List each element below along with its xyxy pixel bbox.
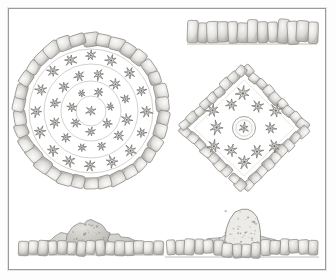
plant-crown xyxy=(242,92,244,94)
specimen-stipple xyxy=(237,232,239,234)
plant-crown xyxy=(118,135,120,137)
foliage-stipple xyxy=(87,229,88,230)
specimen-stipple xyxy=(240,241,242,243)
foliage-stipple xyxy=(98,232,100,234)
plant-crown xyxy=(90,131,92,133)
plant-crown xyxy=(215,126,217,128)
plant-crown xyxy=(78,75,80,77)
specimen-stipple xyxy=(239,211,240,212)
stone xyxy=(257,22,268,43)
plant-crown xyxy=(213,145,215,147)
stone xyxy=(76,241,87,257)
border-course-stones xyxy=(187,19,318,45)
specimen-stipple xyxy=(245,238,246,239)
stone xyxy=(296,20,310,42)
stone xyxy=(308,240,318,255)
figure-left-section-elevation xyxy=(17,205,165,263)
specimen-stipple xyxy=(225,210,227,212)
plant-crown xyxy=(81,147,82,148)
specimen-stipple xyxy=(245,219,246,220)
plant-symbol-rings xyxy=(31,50,153,171)
specimen-stipple xyxy=(254,233,256,235)
plant-crown xyxy=(39,131,41,133)
figure-stone-border-strip-elevation xyxy=(185,15,319,51)
specimen-stipple xyxy=(231,234,232,235)
specimen-stipple xyxy=(251,240,252,241)
plant-crown xyxy=(146,111,148,113)
plant-crown xyxy=(75,122,77,124)
foliage-stipple xyxy=(79,239,80,240)
plant-crown xyxy=(115,83,117,85)
specimen-stipple xyxy=(257,241,258,242)
foliage-stipple xyxy=(103,237,105,239)
plant-crown xyxy=(89,165,91,167)
plant-crown xyxy=(52,149,54,151)
plant-crown xyxy=(141,90,143,92)
specimen-stipple xyxy=(251,221,253,223)
figure-circular-bed-plan xyxy=(9,29,174,194)
foliage-stipple xyxy=(120,236,121,237)
stone xyxy=(251,242,261,258)
plant-crown xyxy=(110,59,112,61)
stone xyxy=(95,240,106,256)
illustration-plate xyxy=(0,0,336,280)
plant-crown xyxy=(52,70,54,72)
specimen-stipple xyxy=(237,228,239,230)
specimen-stipple xyxy=(224,232,226,234)
specimen-stipple xyxy=(244,232,246,234)
plant-crown xyxy=(126,119,128,121)
stone xyxy=(48,241,58,255)
plant-crown xyxy=(40,89,42,91)
foliage-stipple xyxy=(218,237,220,239)
specimen-stipple xyxy=(254,230,255,231)
figure-diamond-bed-plan xyxy=(169,55,319,201)
plant-crown xyxy=(243,127,245,129)
specimen-stipple xyxy=(243,235,245,237)
stone xyxy=(241,244,251,258)
specimen-stipple xyxy=(237,218,239,220)
stone xyxy=(261,240,271,256)
plant-crown xyxy=(101,145,103,147)
specimen-stipple xyxy=(233,228,235,230)
stone xyxy=(143,241,153,254)
foliage-stipple xyxy=(91,224,94,227)
plant-crown xyxy=(35,111,37,113)
plant-crown xyxy=(141,132,143,134)
plant-crown xyxy=(98,74,100,76)
plant-crown xyxy=(65,137,67,139)
stone xyxy=(38,240,49,256)
stone xyxy=(133,241,144,254)
stone xyxy=(222,243,234,258)
specimen-stipple xyxy=(242,237,243,238)
specimen-stipple xyxy=(226,236,227,237)
plant-crown xyxy=(90,54,92,56)
specimen-stipple xyxy=(255,218,256,219)
specimen-stipple xyxy=(229,233,231,235)
plate-frame xyxy=(8,8,326,270)
specimen-stipple xyxy=(246,231,247,232)
stone xyxy=(203,240,214,254)
specimen-stipple xyxy=(247,216,249,218)
stone xyxy=(28,241,38,255)
stone xyxy=(308,22,318,44)
plant-crown xyxy=(257,105,259,107)
stone xyxy=(67,242,77,255)
specimen-stipple xyxy=(254,223,255,224)
foliage-stipple xyxy=(82,239,83,240)
plant-crown xyxy=(243,161,245,163)
specimen-stipple xyxy=(234,238,235,239)
stone xyxy=(184,239,195,256)
stone xyxy=(85,240,95,254)
plant-crown xyxy=(69,59,71,61)
foliage-stipple xyxy=(88,232,89,233)
specimen-stipple xyxy=(248,237,249,238)
plant-crown xyxy=(107,123,109,125)
plant-crown xyxy=(212,109,214,111)
stone xyxy=(18,241,29,256)
plant-crown xyxy=(130,150,132,152)
plant-crown xyxy=(81,93,82,94)
stone xyxy=(217,22,229,43)
stone xyxy=(288,239,299,253)
foliage-stipple xyxy=(96,234,97,235)
plant-crown xyxy=(98,91,100,93)
